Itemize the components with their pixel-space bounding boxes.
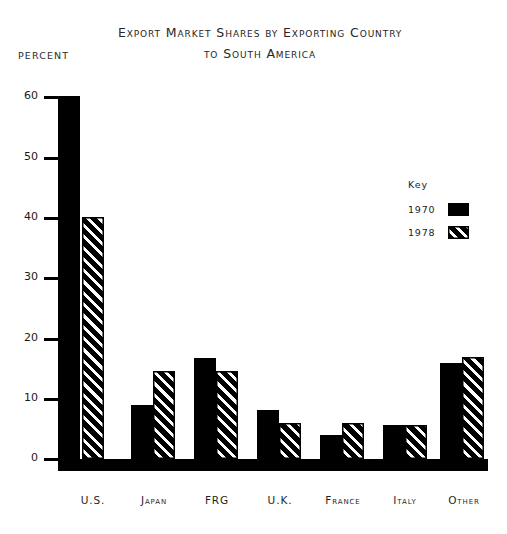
- bar-us-1970: [58, 96, 80, 459]
- bar-us-1978: [82, 217, 104, 459]
- y-tick-40: 40: [44, 217, 59, 220]
- y-tick-50: 50: [44, 157, 59, 160]
- legend-title: Key: [408, 179, 469, 190]
- plot-area: 0 10 20 30 40 50 60: [0, 0, 507, 534]
- export-market-shares-chart: Export Market Shares by Exporting Countr…: [0, 0, 507, 534]
- bar-other-1970: [440, 363, 462, 459]
- bar-frg-1970: [194, 358, 216, 459]
- legend-item-1970: 1970: [408, 202, 469, 216]
- y-tick-label-40: 40: [24, 210, 38, 223]
- legend-swatch-1970: [448, 203, 469, 216]
- y-tick-label-30: 30: [24, 270, 38, 283]
- y-tick-30: 30: [44, 277, 59, 280]
- bar-japan-1970: [131, 405, 153, 459]
- bar-frg-1978: [216, 371, 238, 459]
- legend-label-1970: 1970: [408, 204, 444, 215]
- x-category-label-japan: Japan: [141, 494, 167, 506]
- y-tick-0: 0: [44, 458, 59, 461]
- y-tick-label-10: 10: [24, 391, 38, 404]
- bar-japan-1978: [153, 371, 175, 459]
- legend-swatch-1978: [448, 226, 469, 239]
- x-category-label-uk: U.K.: [268, 494, 293, 506]
- legend-label-1978: 1978: [408, 227, 444, 238]
- y-tick-60: 60: [44, 96, 59, 99]
- bar-uk-1970: [257, 410, 279, 459]
- y-tick-label-50: 50: [24, 150, 38, 163]
- bar-france-1978: [342, 423, 364, 459]
- x-axis-baseline: [58, 459, 488, 469]
- x-category-label-italy: Italy: [393, 494, 416, 506]
- bar-uk-1978: [279, 423, 301, 459]
- bar-other-1978: [462, 357, 484, 459]
- y-tick-label-0: 0: [31, 451, 38, 464]
- legend-item-1978: 1978: [408, 225, 469, 239]
- bar-italy-1978: [405, 425, 427, 459]
- x-category-label-france: France: [325, 494, 360, 506]
- y-tick-label-60: 60: [24, 89, 38, 102]
- x-category-label-frg: FRG: [205, 494, 229, 506]
- bar-france-1970: [320, 435, 342, 459]
- y-tick-10: 10: [44, 398, 59, 401]
- y-tick-20: 20: [44, 338, 59, 341]
- bar-italy-1970: [383, 425, 405, 459]
- x-category-label-us: U.S.: [81, 494, 106, 506]
- x-category-label-other: Other: [448, 494, 480, 506]
- legend: Key 1970 1978: [408, 179, 469, 248]
- y-tick-label-20: 20: [24, 331, 38, 344]
